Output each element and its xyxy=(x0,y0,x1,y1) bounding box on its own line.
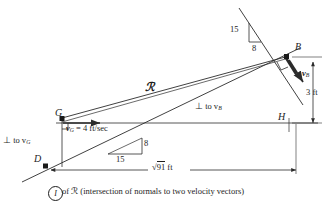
line-G-to-B-secondary xyxy=(62,58,289,122)
perp-vG-text: ⊥ to v xyxy=(3,135,26,145)
perp-vB-subscript: B xyxy=(218,105,222,111)
dimension-label-3ft: 3 ft xyxy=(306,88,318,97)
dimension-label-sqrt91: √91 ft xyxy=(152,163,173,172)
line-rod-through-B xyxy=(239,8,303,105)
diagram-vector-graphics xyxy=(0,0,331,208)
perpendicular-to-vG-label: ⊥ to vG xyxy=(3,136,30,146)
slope-triangle-mid-hypotenuse xyxy=(108,138,142,154)
vG-value-label: vG = 4 ft/sec xyxy=(66,124,108,134)
slope-mid-rise-label: 8 xyxy=(144,139,148,148)
slope-top-rise-label: 15 xyxy=(230,25,239,34)
point-label-G: G xyxy=(55,108,62,118)
slope-top-run-label: 8 xyxy=(252,44,256,53)
perp-vG-subscript: G xyxy=(26,139,30,145)
vB-label: vB xyxy=(302,69,309,79)
radicand-value: 91 xyxy=(157,161,166,172)
figure-canvas: G B D H ℛ ⊥ to vG ⊥ to vB vG = 4 ft/sec … xyxy=(0,0,331,208)
perp-vB-text: ⊥ to v xyxy=(195,101,218,111)
radical-sign: √ xyxy=(152,162,157,172)
point-label-H: H xyxy=(278,112,285,122)
script-R-label: ℛ xyxy=(145,81,155,93)
line-G-to-B xyxy=(62,56,289,118)
slope-mid-run-label: 15 xyxy=(116,155,125,164)
point-marker-B xyxy=(284,54,289,59)
point-marker-D xyxy=(43,164,48,169)
line-G-to-D-vertical xyxy=(45,120,62,167)
velocity-vector-vB-arrow xyxy=(289,60,303,82)
rod-segment-at-B xyxy=(286,58,296,74)
perpendicular-to-vB-label: ⊥ to vB xyxy=(195,102,222,112)
point-label-B: B xyxy=(295,42,301,52)
vB-subscript: B xyxy=(306,72,310,78)
figure-caption: of ℛ (intersection of normals to two vel… xyxy=(62,187,244,196)
script-R-glyph: ℛ xyxy=(145,80,155,94)
circled-I-symbol: I xyxy=(48,186,63,201)
vG-value-text: = 4 ft/sec xyxy=(74,123,108,133)
unit-ft: ft xyxy=(167,162,172,172)
point-label-D: D xyxy=(34,154,41,164)
